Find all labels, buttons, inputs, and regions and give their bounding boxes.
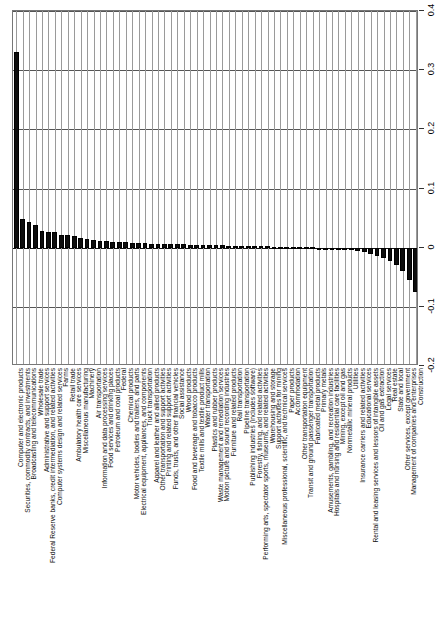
y-tick-label: 0: [426, 244, 436, 249]
bar[interactable]: [162, 244, 167, 248]
bar[interactable]: [110, 242, 115, 248]
bar[interactable]: [91, 240, 96, 248]
category-rule: [377, 11, 378, 364]
bar[interactable]: [175, 244, 180, 247]
bar[interactable]: [246, 246, 251, 248]
bar[interactable]: [149, 244, 154, 248]
category-rule: [29, 11, 30, 364]
bar[interactable]: [284, 247, 289, 249]
bar[interactable]: [72, 236, 77, 247]
bar[interactable]: [136, 243, 141, 248]
bar[interactable]: [27, 222, 32, 248]
category-rule: [409, 11, 410, 364]
bar[interactable]: [239, 246, 244, 248]
bar[interactable]: [214, 245, 219, 247]
bar[interactable]: [143, 243, 148, 247]
category-rule: [242, 11, 243, 364]
category-rule: [403, 11, 404, 364]
bar[interactable]: [156, 244, 161, 248]
bar[interactable]: [336, 248, 341, 250]
bar[interactable]: [78, 238, 83, 248]
bar[interactable]: [362, 248, 367, 253]
bar[interactable]: [265, 246, 270, 248]
category-rule: [74, 11, 75, 364]
category-rule: [261, 11, 262, 364]
category-rule: [313, 11, 314, 364]
y-tick-mark: [419, 128, 424, 129]
bar[interactable]: [291, 247, 296, 249]
bar[interactable]: [104, 241, 109, 248]
bar[interactable]: [252, 246, 257, 248]
category-rule: [61, 11, 62, 364]
bar[interactable]: [220, 245, 225, 247]
bar[interactable]: [388, 248, 393, 262]
bar[interactable]: [233, 246, 238, 248]
bar[interactable]: [130, 243, 135, 248]
bar[interactable]: [59, 235, 64, 248]
category-rule: [171, 11, 172, 364]
bar[interactable]: [375, 248, 380, 256]
category-rule: [42, 11, 43, 364]
bar[interactable]: [188, 245, 193, 248]
y-tick-label: 0.4: [426, 4, 436, 17]
category-rule: [358, 11, 359, 364]
bar[interactable]: [317, 248, 322, 250]
bar[interactable]: [304, 247, 309, 249]
y-tick-mark: [419, 306, 424, 307]
bar-slot: [413, 11, 418, 364]
bar[interactable]: [117, 242, 122, 248]
category-axis-labels: Computer and electronic productsSecuriti…: [12, 366, 418, 641]
category-rule: [145, 11, 146, 364]
y-tick-label: 0.1: [426, 181, 436, 194]
bar[interactable]: [297, 247, 302, 249]
bar[interactable]: [123, 242, 128, 247]
bar[interactable]: [65, 235, 70, 247]
category-rule: [48, 11, 49, 364]
bar[interactable]: [278, 247, 283, 249]
bar[interactable]: [272, 247, 277, 249]
bar[interactable]: [368, 248, 373, 255]
category-rule: [152, 11, 153, 364]
bar[interactable]: [98, 241, 103, 248]
bar[interactable]: [181, 244, 186, 247]
y-tick-label: -0.2: [426, 357, 436, 373]
category-rule: [100, 11, 101, 364]
bar[interactable]: [14, 52, 19, 247]
bar[interactable]: [355, 248, 360, 252]
bar[interactable]: [226, 246, 231, 248]
bar[interactable]: [259, 246, 264, 248]
bar[interactable]: [413, 248, 418, 292]
bar[interactable]: [52, 232, 57, 247]
bar[interactable]: [330, 248, 335, 250]
category-rule: [210, 11, 211, 364]
category-rule: [203, 11, 204, 364]
bar[interactable]: [310, 247, 315, 249]
bar[interactable]: [407, 248, 412, 281]
category-rule: [81, 11, 82, 364]
category-rule: [390, 11, 391, 364]
bar[interactable]: [207, 245, 212, 247]
category-rule: [68, 11, 69, 364]
category-rule: [119, 11, 120, 364]
bar[interactable]: [394, 248, 399, 266]
category-rule: [332, 11, 333, 364]
bar[interactable]: [381, 248, 386, 259]
bar[interactable]: [40, 231, 45, 248]
bar[interactable]: [201, 245, 206, 248]
bar[interactable]: [194, 245, 199, 248]
bar[interactable]: [323, 248, 328, 250]
y-tick-mark: [419, 10, 424, 11]
bar[interactable]: [33, 225, 38, 247]
category-rule: [113, 11, 114, 364]
category-rule: [351, 11, 352, 364]
bar[interactable]: [85, 239, 90, 248]
bar[interactable]: [400, 248, 405, 272]
bar[interactable]: [20, 219, 25, 247]
category-rule: [326, 11, 327, 364]
bar[interactable]: [168, 244, 173, 248]
bar[interactable]: [342, 248, 347, 250]
bar[interactable]: [349, 248, 354, 250]
bar[interactable]: [46, 232, 51, 248]
category-rule: [177, 11, 178, 364]
category-rule: [319, 11, 320, 364]
